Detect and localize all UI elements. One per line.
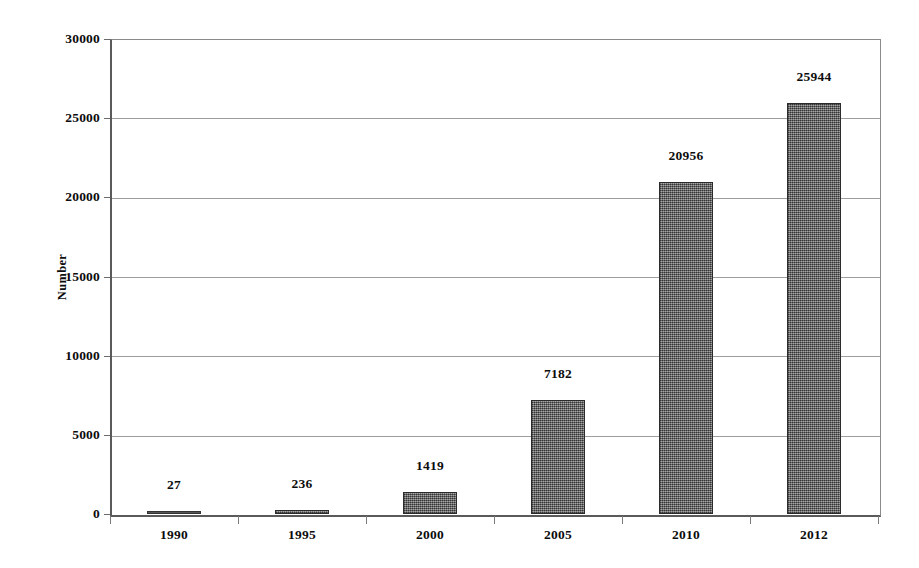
y-axis-tick-label: 25000 xyxy=(0,110,100,126)
bar-value-label-2010: 20956 xyxy=(622,148,750,164)
gridline-25000 xyxy=(112,118,880,119)
bar-1990 xyxy=(147,511,201,514)
x-axis-tick-mark xyxy=(238,516,239,524)
bar-value-label-1990: 27 xyxy=(110,477,238,493)
bar-2012 xyxy=(787,103,841,514)
y-axis-tick-label: 30000 xyxy=(0,31,100,47)
x-axis-tick-mark xyxy=(878,516,879,524)
bar-2000 xyxy=(403,492,457,514)
x-axis-tick-mark xyxy=(494,516,495,524)
gridline-5000 xyxy=(112,436,880,437)
plot-area xyxy=(110,39,881,517)
x-axis-category-label-2012: 2012 xyxy=(750,527,878,543)
x-axis-category-label-1995: 1995 xyxy=(238,527,366,543)
bar-value-label-2005: 7182 xyxy=(494,366,622,382)
bar-1995 xyxy=(275,510,329,514)
y-axis-tick-label: 5000 xyxy=(0,427,100,443)
x-axis-tick-mark xyxy=(110,516,111,524)
bar-value-label-1995: 236 xyxy=(238,476,366,492)
gridline-15000 xyxy=(112,277,880,278)
y-axis-tick-label: 0 xyxy=(0,506,100,522)
bar-value-label-2000: 1419 xyxy=(366,458,494,474)
y-axis-tick-label: 15000 xyxy=(0,269,100,285)
y-axis-tick-label: 10000 xyxy=(0,348,100,364)
x-axis-tick-mark xyxy=(366,516,367,524)
gridline-10000 xyxy=(112,356,880,357)
x-axis-tick-mark xyxy=(750,516,751,524)
x-axis-category-label-2010: 2010 xyxy=(622,527,750,543)
x-axis-category-label-1990: 1990 xyxy=(110,527,238,543)
bar-2005 xyxy=(531,400,585,514)
gridline-20000 xyxy=(112,198,880,199)
y-axis-tick-label: 20000 xyxy=(0,189,100,205)
bar-value-label-2012: 25944 xyxy=(750,69,878,85)
bar-chart: 30000 25000 20000 15000 10000 5000 0 Num… xyxy=(0,0,919,568)
x-axis-category-label-2000: 2000 xyxy=(366,527,494,543)
y-axis-title: Number xyxy=(55,254,70,300)
x-axis-tick-mark xyxy=(622,516,623,524)
bar-2010 xyxy=(659,182,713,514)
x-axis-category-label-2005: 2005 xyxy=(494,527,622,543)
